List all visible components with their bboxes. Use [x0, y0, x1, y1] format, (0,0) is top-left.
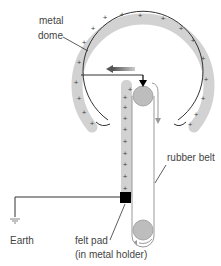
svg-text:+: + — [82, 38, 87, 47]
svg-text:+: + — [138, 11, 143, 20]
svg-text:+: + — [90, 119, 95, 128]
label-rubber-belt: rubber belt — [167, 152, 215, 164]
comb-arrowhead — [139, 80, 147, 87]
svg-text:+: + — [123, 160, 128, 169]
svg-text:+: + — [77, 94, 82, 103]
svg-text:+: + — [123, 114, 128, 123]
svg-text:+: + — [123, 172, 128, 181]
belt-leader — [155, 165, 166, 183]
svg-text:+: + — [103, 13, 108, 22]
svg-text:+: + — [123, 137, 128, 146]
svg-text:+: + — [123, 93, 128, 102]
svg-text:+: + — [74, 78, 79, 87]
bottom-roller — [133, 220, 153, 240]
svg-text:+: + — [123, 125, 128, 134]
svg-text:+: + — [161, 14, 166, 23]
svg-text:+: + — [123, 184, 128, 193]
charge-flow-arrowhead — [106, 65, 113, 73]
dome-left-end — [96, 122, 110, 126]
label-earth: Earth — [10, 235, 34, 247]
charge-flow-arrow-shaft — [113, 67, 135, 71]
svg-text:+: + — [201, 54, 206, 63]
label-metal-dome-1: metal — [39, 15, 63, 27]
svg-text:+: + — [204, 75, 209, 84]
belt-motion-arrow — [152, 83, 158, 118]
svg-text:+: + — [82, 108, 87, 117]
van-de-graaff-diagram: + + + + + + + + + + + + + + + + + + + + … — [0, 0, 221, 266]
svg-text:+: + — [120, 10, 125, 19]
top-roller — [133, 86, 153, 106]
svg-text:+: + — [194, 110, 199, 119]
svg-text:+: + — [123, 103, 128, 112]
svg-text:+: + — [191, 36, 196, 45]
label-metal-dome-2: dome — [38, 30, 63, 42]
dome-charge-band — [77, 19, 209, 127]
svg-text:+: + — [179, 24, 184, 33]
svg-text:+: + — [91, 24, 96, 33]
pad-leader — [110, 204, 125, 240]
dome-right-end — [174, 122, 186, 126]
svg-text:+: + — [128, 85, 133, 94]
earth-wire — [15, 197, 120, 217]
felt-pad — [120, 192, 131, 203]
svg-text:+: + — [201, 94, 206, 103]
svg-text:+: + — [123, 149, 128, 158]
svg-text:+: + — [188, 120, 193, 129]
label-felt-pad-2: (in metal holder) — [75, 249, 147, 261]
label-felt-pad-1: felt pad — [75, 235, 108, 247]
earth-symbol — [10, 219, 20, 223]
belt-motion-arrowhead — [155, 118, 161, 124]
svg-text:+: + — [77, 58, 82, 67]
